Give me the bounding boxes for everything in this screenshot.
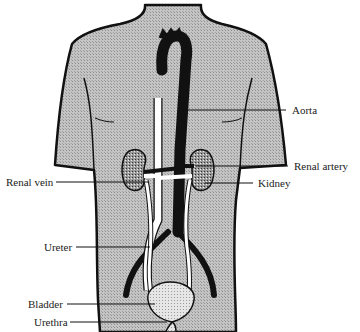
label-aorta: Aorta [292,104,317,116]
label-renal-vein: Renal vein [6,176,53,188]
label-urethra: Urethra [34,316,68,328]
label-ureter: Ureter [44,241,72,253]
left-kidney [122,150,146,191]
label-kidney: Kidney [258,177,290,189]
label-renal-artery: Renal artery [294,160,348,172]
label-bladder: Bladder [28,298,63,310]
right-kidney [190,150,214,191]
